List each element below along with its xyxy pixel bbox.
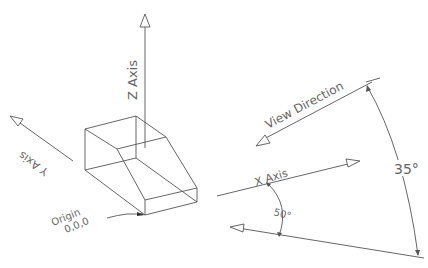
z-axis: Z Axis xyxy=(125,14,150,148)
y-axis: Y Axis xyxy=(10,116,73,179)
reference-line xyxy=(230,224,424,258)
view-direction-line: View Direction xyxy=(256,78,380,146)
angle-50-dimension: 50° xyxy=(266,182,292,237)
angle-35-arrow-bottom-icon xyxy=(415,250,420,256)
x-axis-arrowhead-icon xyxy=(346,159,360,167)
x-axis-label: X Axis xyxy=(253,166,289,188)
angle-35-dimension: 35° xyxy=(366,85,421,256)
x-axis: X Axis xyxy=(217,159,360,196)
angle-35-label: 35° xyxy=(394,161,419,177)
reference-arrowhead-icon xyxy=(230,224,244,232)
angle-50-label: 50° xyxy=(272,206,292,221)
y-axis-arrowhead-icon xyxy=(10,116,23,126)
projection-diagram: Z Axis Y Axis Origin 0,0,0 xyxy=(0,0,428,268)
z-axis-label: Z Axis xyxy=(125,60,140,100)
wireframe-solid xyxy=(85,116,197,215)
view-direction-label: View Direction xyxy=(263,79,346,132)
y-axis-label: Y Axis xyxy=(16,148,52,178)
z-axis-arrowhead-icon xyxy=(140,14,150,27)
origin-annotation: Origin 0,0,0 xyxy=(50,206,145,235)
